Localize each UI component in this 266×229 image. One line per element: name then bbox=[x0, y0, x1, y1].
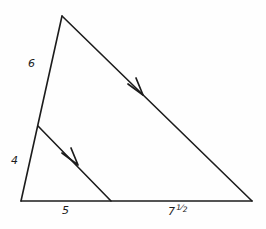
label-base-right-segment: 71⁄2 bbox=[168, 204, 188, 217]
triangle-left-side bbox=[21, 16, 62, 201]
fraction-denominator: 2 bbox=[183, 205, 188, 214]
label-base-right-fraction: 1⁄2 bbox=[176, 204, 187, 212]
label-base-left-segment: 5 bbox=[62, 205, 69, 216]
diagram-canvas: 6 4 5 71⁄2 bbox=[0, 0, 266, 229]
cevian-direction-arrow-icon bbox=[62, 148, 78, 165]
label-upper-left-side: 6 bbox=[28, 58, 35, 69]
triangle-figure bbox=[0, 0, 266, 229]
parallel-cevian-segment bbox=[38, 126, 111, 201]
label-lower-left-side: 4 bbox=[11, 155, 18, 166]
label-base-right-whole: 7 bbox=[168, 205, 175, 218]
triangle-hypotenuse bbox=[62, 16, 252, 201]
